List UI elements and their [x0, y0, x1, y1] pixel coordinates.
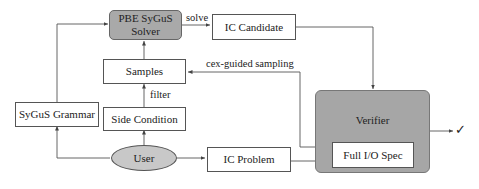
side-condition-node: Side Condition	[103, 107, 186, 131]
ic-problem-node: IC Problem	[207, 147, 291, 172]
solve-edge-label: solve	[186, 12, 208, 23]
filter-edge-label: filter	[150, 89, 170, 100]
sygus-grammar-node: SyGuS Grammar	[15, 102, 99, 127]
verifier-label: Verifier	[356, 114, 390, 127]
samples-label: Samples	[126, 65, 163, 78]
solver-label-line1: PBE SyGuS	[118, 12, 172, 25]
ic-problem-label: IC Problem	[223, 153, 274, 166]
solver-label-line2: Solver	[131, 25, 160, 38]
full-io-spec-node: Full I/O Spec	[332, 142, 414, 168]
pbe-sygus-solver-node: PBE SyGuS Solver	[109, 10, 182, 40]
side-condition-label: Side Condition	[111, 113, 177, 126]
ic-candidate-node: IC Candidate	[212, 14, 296, 40]
samples-node: Samples	[103, 59, 186, 84]
cex-guided-sampling-edge-label: cex-guided sampling	[206, 58, 294, 69]
user-node: User	[111, 145, 177, 171]
user-label: User	[134, 152, 155, 164]
checkmark-icon: ✓	[455, 122, 466, 137]
sygus-grammar-label: SyGuS Grammar	[19, 108, 95, 121]
ic-candidate-label: IC Candidate	[225, 21, 283, 34]
full-io-spec-label: Full I/O Spec	[343, 149, 402, 162]
